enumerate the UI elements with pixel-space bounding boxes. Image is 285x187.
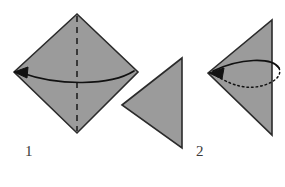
step-2-label: 2 (196, 144, 204, 159)
step-1-label: 1 (25, 144, 33, 159)
origami-figure: 1 2 (0, 0, 285, 187)
step-2-group (208, 20, 280, 135)
step-1-group (14, 14, 138, 133)
figure-canvas (0, 0, 285, 187)
square-diamond-shape (14, 14, 138, 133)
